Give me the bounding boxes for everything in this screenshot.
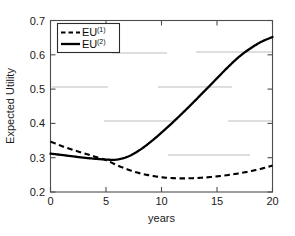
x-tick-label: 15 <box>211 195 223 207</box>
chart-figure: 0.2 0.3 0.4 0.5 0.6 0.7 0 5 10 15 20 yea… <box>0 0 295 236</box>
legend-label-eu1: EU <box>82 26 97 38</box>
y-tick-label: 0.7 <box>30 15 45 27</box>
legend-superscript-eu1: (1) <box>97 26 106 34</box>
x-axis-title: years <box>148 212 175 224</box>
y-tick-label: 0.5 <box>30 83 45 95</box>
y-tick-label: 0.3 <box>30 152 45 164</box>
x-tick-label: 10 <box>155 195 167 207</box>
legend-label-eu2: EU <box>82 38 97 50</box>
legend[interactable]: EU (1) EU (2) <box>58 24 120 53</box>
y-tick-label: 0.4 <box>30 117 45 129</box>
y-tick-label: 0.6 <box>30 49 45 61</box>
expected-utility-line-chart: 0.2 0.3 0.4 0.5 0.6 0.7 0 5 10 15 20 yea… <box>0 0 295 236</box>
y-axis-title: Expected Utility <box>4 68 16 144</box>
y-tick-label: 0.2 <box>30 186 45 198</box>
x-tick-label: 0 <box>47 195 53 207</box>
x-tick-label: 5 <box>103 195 109 207</box>
x-tick-label: 20 <box>266 195 278 207</box>
legend-superscript-eu2: (2) <box>97 38 106 46</box>
